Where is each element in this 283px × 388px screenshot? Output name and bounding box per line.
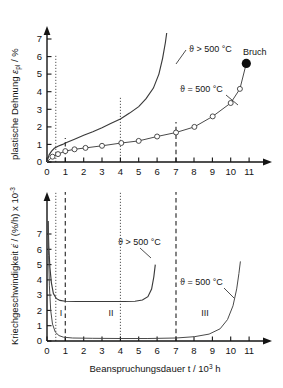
lower-y-ticklabel-0: 0 [37, 335, 42, 346]
upper-y-ticklabel-7: 7 [37, 33, 42, 44]
lower-y-axis: 0 1 2 3 4 5 6 7 Kriechgeschwindigkeit ε̇… [9, 187, 52, 347]
lower-x-ticklabel-5: 5 [136, 345, 141, 356]
lower-y-ticklabel-4: 4 [37, 274, 42, 285]
upper-x-ticklabel-0: 0 [44, 166, 49, 177]
lower-x-axis-title-unit: / 10 [193, 363, 209, 374]
upper-y-ticklabel-0: 0 [37, 156, 42, 167]
data-marker [72, 147, 77, 152]
upper-annotation-bruch: Bruch [243, 47, 267, 57]
upper-x-ticklabel-8: 8 [191, 166, 196, 177]
lower-x-ticklabel-3: 3 [99, 345, 104, 356]
data-marker [100, 143, 105, 148]
data-marker [119, 141, 124, 146]
upper-y-axis: 0 1 2 3 4 5 6 7 plastische Dehnung εpl /… [9, 26, 52, 167]
data-marker [237, 86, 242, 91]
lower-x-ticklabel-8: 8 [191, 345, 196, 356]
fracture-point-marker [242, 59, 251, 68]
upper-y-ticklabel-1: 1 [37, 139, 42, 150]
lower-x-ticklabel-4: 4 [118, 345, 123, 356]
upper-x-ticklabel-7: 7 [173, 166, 178, 177]
lower-x-axis-title-tail: h [215, 363, 220, 374]
upper-curve-theta-equals-500 [47, 63, 246, 162]
upper-chart: 0 1 2 3 4 5 6 7 plastische Dehnung εpl /… [9, 26, 272, 177]
upper-x-ticklabel-6: 6 [154, 166, 159, 177]
region-label-II: II [108, 308, 113, 318]
upper-x-axis: 0 1 2 3 4 5 6 7 8 9 10 11 [44, 158, 272, 177]
upper-y-axis-title-main: plastische Dehnung [9, 77, 20, 160]
lower-x-axis-arrow [263, 338, 272, 345]
lower-reference-lines [56, 192, 176, 341]
lower-y-axis-title-main: Kriechgeschwindigkeit [9, 251, 20, 345]
upper-y-ticklabel-2: 2 [37, 121, 42, 132]
lower-curve-theta-above-500 [48, 221, 155, 302]
lower-y-ticklabel-5: 5 [37, 259, 42, 270]
lower-y-ticklabel-1: 1 [37, 320, 42, 331]
lower-x-ticklabel-11: 11 [244, 345, 254, 356]
lower-y-axis-title: Kriechgeschwindigkeit ε̇ / (%/h) x 10-3 [9, 187, 20, 345]
lower-x-ticklabel-2: 2 [81, 345, 86, 356]
lower-y-ticklabel-3: 3 [37, 289, 42, 300]
upper-y-axis-title-unit: % [9, 48, 20, 57]
lower-x-ticklabel-1: 1 [63, 345, 68, 356]
lower-x-ticklabel-9: 9 [210, 345, 215, 356]
lower-y-axis-title-exp: -3 [9, 187, 16, 193]
region-label-I: I [60, 308, 63, 318]
upper-x-ticklabel-2: 2 [81, 166, 86, 177]
lower-x-ticklabel-10: 10 [225, 345, 236, 356]
upper-x-ticklabel-9: 9 [210, 166, 215, 177]
upper-x-ticklabel-3: 3 [99, 166, 104, 177]
lower-y-axis-arrow [44, 192, 51, 201]
data-marker [50, 154, 55, 159]
upper-y-ticklabel-6: 6 [37, 51, 42, 62]
upper-x-axis-arrow [263, 159, 272, 166]
upper-x-ticklabel-4: 4 [118, 166, 123, 177]
lower-leader-theta-equals-500 [224, 288, 234, 298]
upper-reference-lines [56, 54, 176, 162]
data-marker [228, 101, 233, 106]
lower-x-ticklabel-0: 0 [44, 345, 49, 356]
upper-y-ticklabel-4: 4 [37, 86, 42, 97]
lower-y-ticklabel-7: 7 [37, 228, 42, 239]
upper-y-axis-title: plastische Dehnung εpl / % [9, 48, 22, 160]
lower-y-ticklabel-2: 2 [37, 305, 42, 316]
upper-y-axis-arrow [44, 26, 51, 35]
lower-y-ticklabel-6: 6 [37, 244, 42, 255]
data-marker [83, 145, 88, 150]
lower-annotation-theta-above-500: ϑ > 500 °C [118, 237, 161, 247]
lower-x-axis-title: Beanspruchungsdauer t / 103 h [90, 363, 221, 374]
lower-x-ticklabel-7: 7 [173, 345, 178, 356]
upper-x-ticklabel-10: 10 [225, 166, 236, 177]
data-marker [136, 138, 141, 143]
data-marker [63, 149, 68, 154]
upper-y-ticklabel-5: 5 [37, 68, 42, 79]
lower-leader-theta-above-500 [140, 248, 151, 258]
upper-y-ticklabel-3: 3 [37, 104, 42, 115]
upper-x-ticklabel-1: 1 [63, 166, 68, 177]
figure-svg: 0 1 2 3 4 5 6 7 plastische Dehnung εpl /… [0, 0, 283, 388]
region-label-III: III [201, 308, 209, 318]
data-marker [56, 152, 61, 157]
lower-x-ticklabel-6: 6 [154, 345, 159, 356]
upper-x-ticklabel-5: 5 [136, 166, 141, 177]
data-marker [192, 124, 197, 129]
data-marker [155, 134, 160, 139]
upper-x-ticklabel-11: 11 [244, 166, 254, 177]
lower-x-axis-title-main: Beanspruchungsdauer t [90, 363, 191, 374]
lower-y-axis-title-unit: (%/h) x 10 [9, 193, 20, 236]
data-marker [210, 114, 215, 119]
creep-curves-figure: 0 1 2 3 4 5 6 7 plastische Dehnung εpl /… [0, 0, 283, 388]
upper-leader-theta-above-500 [176, 50, 186, 64]
upper-annotation-theta-above-500: ϑ > 500 °C [189, 44, 232, 54]
upper-annotation-theta-equals-500: ϑ = 500 °C [180, 84, 223, 94]
lower-annotation-theta-equals-500: ϑ = 500 °C [180, 277, 223, 287]
lower-x-axis: 0 1 2 3 4 5 6 7 8 9 10 11 Beanspruchungs… [44, 337, 272, 374]
lower-chart: 0 1 2 3 4 5 6 7 Kriechgeschwindigkeit ε̇… [9, 187, 272, 374]
data-marker [174, 130, 179, 135]
